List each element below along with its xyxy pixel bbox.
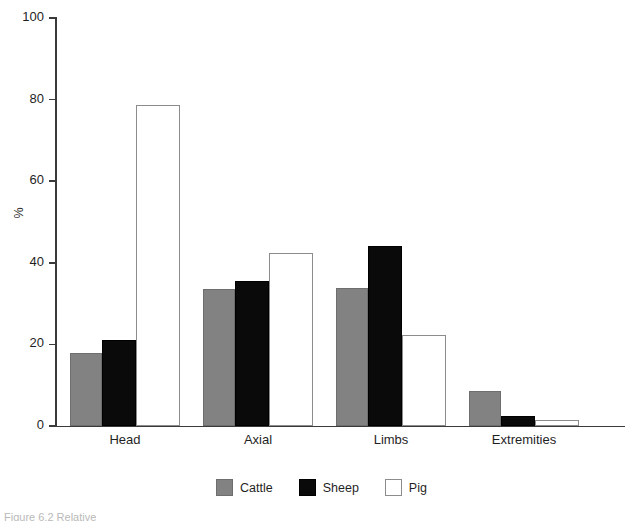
y-axis-tick [49, 99, 56, 101]
bar-cattle-extremities [469, 391, 501, 426]
x-axis-label-head: Head [65, 432, 185, 447]
bar-sheep-head [102, 340, 136, 426]
legend-label: Cattle [240, 481, 273, 495]
bar-sheep-extremities [501, 416, 535, 426]
y-axis-tick-label: 40 [8, 254, 44, 269]
y-axis-tick [49, 262, 56, 264]
bar-pig-limbs [402, 335, 446, 426]
bar-chart: % 020406080100 HeadAxialLimbsExtremities… [0, 0, 643, 521]
y-axis-tick [49, 17, 56, 19]
legend-swatch-icon [299, 479, 316, 496]
bar-sheep-axial [235, 281, 269, 426]
legend-item-pig: Pig [385, 479, 427, 496]
y-axis-tick [49, 344, 56, 346]
y-axis-tick-label: 80 [8, 91, 44, 106]
bar-pig-extremities [535, 420, 579, 426]
bar-cattle-head [70, 353, 102, 426]
bar-pig-head [136, 105, 180, 426]
y-axis-tick [49, 180, 56, 182]
legend-swatch-icon [216, 479, 233, 496]
legend-swatch-icon [385, 479, 402, 496]
figure-caption: Figure 6.2 Relative [4, 511, 96, 521]
y-axis-tick-label: 100 [8, 9, 44, 24]
x-axis-label-axial: Axial [198, 432, 318, 447]
x-axis-label-extremities: Extremities [464, 432, 584, 447]
bar-cattle-axial [203, 289, 235, 426]
legend-label: Sheep [323, 481, 359, 495]
bar-pig-axial [269, 253, 313, 426]
y-axis-tick-label: 20 [8, 335, 44, 350]
legend-item-cattle: Cattle [216, 479, 273, 496]
y-axis-tick-label: 60 [8, 172, 44, 187]
bar-sheep-limbs [368, 246, 402, 426]
legend-label: Pig [409, 481, 427, 495]
plot-area [56, 18, 625, 426]
y-axis-tick-label: 0 [8, 417, 44, 432]
y-axis-tick [49, 425, 56, 427]
legend-item-sheep: Sheep [299, 479, 359, 496]
chart-legend: CattleSheepPig [0, 479, 643, 496]
y-axis-title: % [12, 200, 26, 226]
x-axis-label-limbs: Limbs [331, 432, 451, 447]
bar-cattle-limbs [336, 288, 368, 426]
